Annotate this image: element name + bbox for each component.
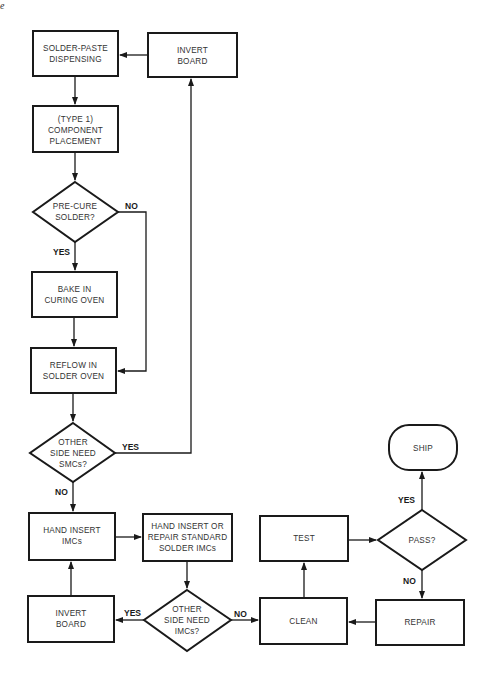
corner-mark: e bbox=[0, 0, 5, 11]
node-text: INVERT bbox=[55, 609, 86, 618]
label-smc-yes: YES bbox=[122, 442, 139, 452]
node-text: SHIP bbox=[413, 444, 433, 453]
flowchart: e bbox=[0, 0, 489, 677]
node-invert-board-bottom: INVERT BOARD bbox=[28, 596, 114, 642]
node-clean: CLEAN bbox=[260, 598, 347, 644]
node-text: TEST bbox=[293, 534, 315, 543]
node-text: DISPENSING bbox=[49, 55, 102, 64]
edge-smc-yes-to-invert bbox=[115, 79, 191, 453]
node-component-placement: (TYPE 1) COMPONENT PLACEMENT bbox=[33, 106, 118, 152]
node-text: HAND INSERT OR bbox=[151, 522, 224, 531]
node-text: SOLDER-PASTE bbox=[43, 44, 108, 53]
node-text: COMPONENT bbox=[48, 126, 103, 135]
node-text: REPAIR bbox=[404, 618, 435, 627]
node-hand-insert: HAND INSERT IMCs bbox=[29, 513, 115, 560]
node-text: OTHER bbox=[58, 438, 88, 447]
node-ship: SHIP bbox=[389, 425, 457, 470]
node-text: HAND INSERT bbox=[43, 526, 101, 535]
node-text: SOLDER IMCs bbox=[159, 544, 216, 553]
node-test: TEST bbox=[260, 516, 348, 561]
node-text: INVERT bbox=[177, 46, 208, 55]
node-text: SOLDER? bbox=[55, 213, 95, 222]
node-text: OTHER bbox=[172, 605, 202, 614]
node-text: REPAIR STANDARD bbox=[148, 533, 228, 542]
label-imc-yes: YES bbox=[124, 608, 141, 618]
node-other-side-imc-decision: OTHER SIDE NEED IMCs? bbox=[144, 590, 231, 651]
node-text: (TYPE 1) bbox=[58, 115, 93, 124]
node-other-side-smc-decision: OTHER SIDE NEED SMCs? bbox=[30, 423, 115, 482]
node-text: CURING OVEN bbox=[45, 296, 105, 305]
node-text: SOLDER OVEN bbox=[43, 372, 104, 381]
node-text: PRE-CURE bbox=[53, 202, 98, 211]
node-repair: REPAIR bbox=[376, 600, 464, 645]
node-text: SMCs? bbox=[59, 460, 87, 469]
node-text: BAKE IN bbox=[58, 285, 92, 294]
node-text: PASS? bbox=[409, 536, 436, 545]
node-text: PLACEMENT bbox=[50, 137, 102, 146]
edges bbox=[71, 55, 422, 622]
node-text: SIDE NEED bbox=[164, 616, 210, 625]
node-text: BOARD bbox=[56, 620, 86, 629]
node-text: CLEAN bbox=[289, 617, 317, 626]
node-text: IMCs bbox=[62, 537, 82, 546]
node-text: SIDE NEED bbox=[50, 449, 96, 458]
label-imc-no: NO bbox=[234, 609, 247, 619]
node-solder-paste: SOLDER-PASTE DISPENSING bbox=[33, 31, 118, 76]
label-precure-no: NO bbox=[125, 201, 138, 211]
node-hand-insert-repair: HAND INSERT OR REPAIR STANDARD SOLDER IM… bbox=[143, 514, 232, 561]
node-pre-cure-decision: PRE-CURE SOLDER? bbox=[33, 182, 118, 242]
label-pass-no: NO bbox=[403, 576, 416, 586]
label-pass-yes: YES bbox=[398, 495, 415, 505]
node-text: REFLOW IN bbox=[50, 361, 97, 370]
node-reflow: REFLOW IN SOLDER OVEN bbox=[31, 348, 116, 393]
node-text: BOARD bbox=[177, 57, 207, 66]
label-smc-no: NO bbox=[55, 487, 68, 497]
edge-precure-no-to-reflow bbox=[118, 212, 146, 371]
node-bake: BAKE IN CURING OVEN bbox=[32, 272, 117, 317]
node-text: IMCs? bbox=[175, 627, 200, 636]
label-precure-yes: YES bbox=[53, 247, 70, 257]
node-pass-decision: PASS? bbox=[378, 510, 466, 570]
node-invert-board-top: INVERT BOARD bbox=[148, 33, 237, 77]
